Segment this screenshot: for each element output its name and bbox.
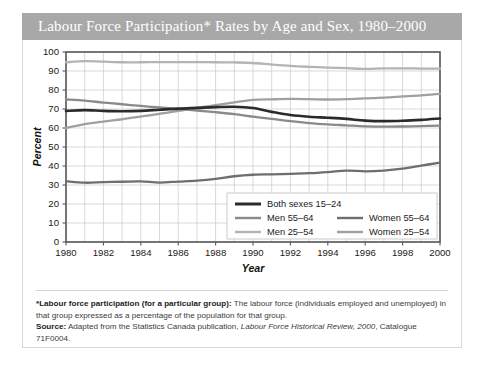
legend-label: Both sexes 15–24 [267,199,341,209]
legend-label: Women 25–54 [369,227,429,237]
footnote-source-publication: Labour Force Historical Review, 2000 [241,322,376,331]
y-tick-label: 60 [48,122,59,133]
footnote-block: *Labour force participation (for a parti… [36,298,452,344]
legend-label: Men 25–54 [267,227,314,237]
y-tick-label: 20 [48,198,59,209]
footnote-definition: *Labour force participation (for a parti… [36,298,452,321]
footnote-source-text-a: Adapted from the Statistics Canada publi… [66,322,241,331]
x-axis-tick-labels: 1980198219841986198819901992199419961998… [55,247,450,258]
x-tick-label: 1994 [317,247,339,258]
y-tick-label: 100 [43,46,59,57]
y-axis-tick-labels: 0102030405060708090100 [43,46,59,247]
figure-card: Labour Force Participation* Rates by Age… [22,13,462,348]
x-tick-label: 2000 [429,247,450,258]
y-tick-label: 90 [48,65,59,76]
footnote-source: Source: Adapted from the Statistics Cana… [36,321,452,344]
legend-label: Women 55–64 [369,213,429,223]
x-tick-label: 1990 [242,247,263,258]
footnote-source-label: Source: [36,322,66,331]
y-tick-label: 80 [48,84,59,95]
line-chart: 0102030405060708090100 19801982198419861… [23,41,461,281]
x-axis-title: Year [242,262,265,274]
page-title: Labour Force Participation* Rates by Age… [22,18,426,35]
y-tick-label: 0 [54,236,59,247]
legend-label: Men 55–64 [267,213,314,223]
footnote-definition-label: *Labour force participation (for a parti… [36,299,232,308]
x-tick-label: 1984 [130,247,152,258]
chart-legend: Both sexes 15–24Men 55–64Men 25–54Women … [227,193,437,239]
y-tick-label: 40 [48,160,59,171]
x-tick-label: 1980 [55,247,76,258]
x-tick-label: 1986 [168,247,189,258]
chart-area: 0102030405060708090100 19801982198419861… [23,41,461,281]
x-tick-label: 1998 [392,247,413,258]
y-tick-label: 10 [48,217,59,228]
x-tick-label: 1996 [355,247,376,258]
x-tick-label: 1982 [93,247,114,258]
footnote-divider [36,290,448,291]
y-tick-label: 30 [48,179,59,190]
y-tick-label: 70 [48,103,59,114]
x-tick-label: 1988 [205,247,226,258]
y-tick-label: 50 [48,141,59,152]
y-axis-title: Percent [31,127,43,166]
x-tick-label: 1992 [280,247,301,258]
figure-title-bar: Labour Force Participation* Rates by Age… [22,13,462,40]
